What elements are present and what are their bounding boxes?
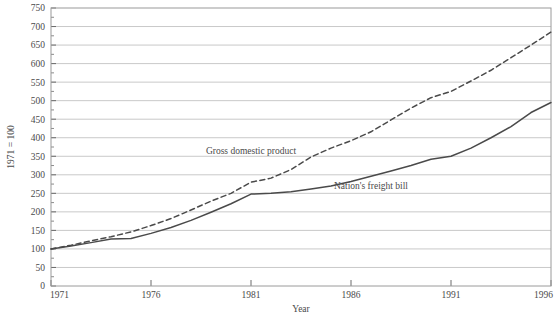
y-tick-label: 450 (31, 115, 46, 125)
x-tick-label: 1986 (342, 290, 361, 300)
y-tick-label: 150 (31, 226, 46, 236)
x-tick-label: 1996 (534, 290, 553, 300)
series-label-group: Gross domestic productNation's freight b… (206, 146, 408, 190)
y-tick-label: 300 (31, 170, 46, 180)
x-tick-label-group: 197119761981198619911996 (50, 290, 553, 300)
y-tick-label: 650 (31, 40, 46, 50)
chart-figure: 0501001502002503003504004505005506006507… (0, 0, 558, 319)
y-tick-label: 400 (31, 133, 46, 143)
y-tick-label: 350 (31, 152, 46, 162)
y-tick-label: 750 (31, 3, 46, 13)
y-tick-label: 50 (36, 263, 46, 273)
x-tick-label: 1971 (50, 290, 69, 300)
y-axis-title: 1971 = 100 (6, 125, 16, 169)
series-label-1: Gross domestic product (206, 146, 297, 156)
y-tick-label: 100 (31, 244, 46, 254)
index-line-chart: 0501001502002503003504004505005506006507… (0, 0, 558, 319)
y-tick-label: 500 (31, 96, 46, 106)
y-tick-label: 250 (31, 189, 46, 199)
series-line-1 (51, 32, 551, 249)
series-line-2 (51, 103, 551, 249)
y-tick-label: 0 (40, 281, 45, 291)
x-tick-label: 1976 (142, 290, 161, 300)
plot-area-frame (51, 8, 551, 286)
y-tick-label: 700 (31, 22, 46, 32)
cropped-caption-remnant (8, 0, 11, 4)
series-path-group (51, 32, 551, 249)
x-tick-group (51, 280, 551, 286)
x-tick-label: 1991 (442, 290, 461, 300)
y-tick-label: 200 (31, 207, 46, 217)
y-tick-label-group: 0501001502002503003504004505005506006507… (31, 3, 46, 291)
x-axis-title: Year (292, 304, 310, 314)
series-label-2: Nation's freight bill (334, 181, 408, 191)
y-tick-label: 600 (31, 59, 46, 69)
gridline-group (51, 27, 551, 268)
x-tick-label: 1981 (242, 290, 261, 300)
y-tick-label: 550 (31, 78, 46, 88)
